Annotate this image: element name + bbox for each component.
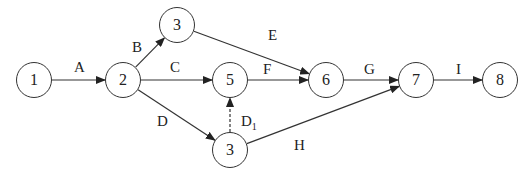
edge-label-subscript: 1 [252,121,257,132]
edge-label-d1: D1 [241,114,257,132]
edge-label-d: D [157,114,168,129]
node-n8: 8 [482,62,518,98]
edge-d [138,90,215,140]
node-n7: 7 [398,62,434,98]
node-n5: 5 [212,62,248,98]
edge-label-i: I [456,62,461,77]
node-n3bot: 3 [212,132,248,168]
edge-label-b: B [132,40,142,55]
node-n6: 6 [308,62,344,98]
edge-label-g: G [364,62,375,77]
edge-label-h: H [294,138,305,153]
edge-label-f: F [263,62,271,77]
node-n2: 2 [105,62,141,98]
edge-label-c: C [170,60,180,75]
edge-label-a: A [74,60,85,75]
edge-e [194,31,309,74]
edges-layer [0,0,532,174]
node-n1: 1 [16,62,52,98]
network-diagram: 12353678 ABCDEFGHID1 [0,0,532,174]
edge-label-e: E [268,28,277,43]
node-n3top: 3 [159,7,195,43]
